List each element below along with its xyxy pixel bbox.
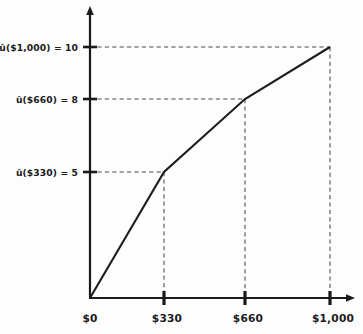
y-axis-label-10: û($1,000) = 10 bbox=[0, 42, 78, 53]
y-axis-label-8: û($660) = 8 bbox=[16, 94, 78, 105]
x-axis-label-660: $660 bbox=[233, 312, 263, 324]
y-axis-label-5: û($330) = 5 bbox=[16, 167, 78, 178]
x-axis-label-0: $0 bbox=[82, 312, 97, 324]
x-axis-label-330: $330 bbox=[152, 312, 182, 324]
x-axis-label-1000: $1,000 bbox=[312, 312, 354, 324]
utility-function-chart: û($1,000) = 10 û($660) = 8 û($330) = 5 $… bbox=[0, 0, 363, 334]
